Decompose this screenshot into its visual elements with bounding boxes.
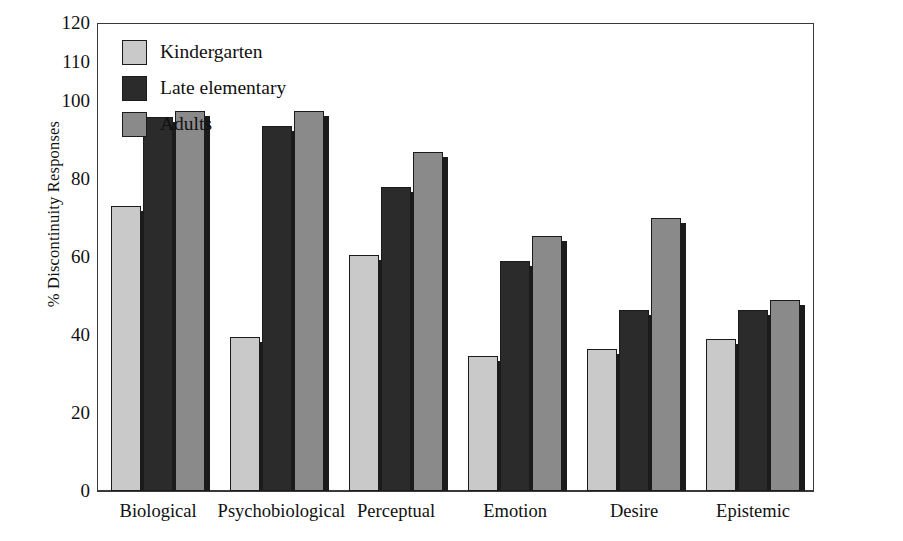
y-axis-tick-label: 40 — [28, 325, 90, 344]
bar-late-elementary[interactable] — [619, 310, 649, 491]
bar-group — [694, 23, 813, 491]
x-axis-category-label: Desire — [575, 500, 694, 522]
bar-late-elementary[interactable] — [381, 187, 411, 491]
legend-item-label: Adults — [160, 113, 212, 135]
y-axis-tick-label-wrap: 100 — [0, 91, 90, 110]
y-axis-tick-label-wrap: 20 — [0, 403, 90, 422]
y-axis-tick-label-wrap: 110 — [0, 52, 90, 71]
bar-adults[interactable] — [651, 218, 681, 491]
legend-swatch-icon — [122, 76, 147, 101]
y-axis-tick-label: 100 — [28, 91, 90, 110]
x-axis-category-label: Psychobiological — [218, 500, 337, 522]
bar-kindergarten[interactable] — [349, 255, 379, 491]
y-axis-tick-label: 0 — [28, 481, 90, 500]
bar-late-elementary[interactable] — [262, 126, 292, 491]
legend-item[interactable]: Late elementary — [122, 70, 286, 106]
bar-kindergarten[interactable] — [111, 206, 141, 491]
bar-kindergarten[interactable] — [230, 337, 260, 491]
bar-adults[interactable] — [175, 111, 205, 491]
bar-adults[interactable] — [770, 300, 800, 491]
bar-group — [575, 23, 694, 491]
y-axis-tick-label: 120 — [28, 13, 90, 32]
bar-late-elementary[interactable] — [738, 310, 768, 491]
legend-swatch-icon — [122, 112, 147, 137]
legend-item[interactable]: Kindergarten — [122, 34, 286, 70]
legend-item-label: Late elementary — [160, 77, 286, 99]
bar-late-elementary[interactable] — [500, 261, 530, 491]
y-axis-tick-label: 110 — [28, 52, 90, 71]
bar-adults[interactable] — [294, 111, 324, 491]
bar-kindergarten[interactable] — [706, 339, 736, 491]
legend-swatch-icon — [122, 40, 147, 65]
y-axis-tick-label-wrap: 80 — [0, 169, 90, 188]
bar-group — [337, 23, 456, 491]
bar-chart-figure: % Discontinuity Responses 02040608010011… — [0, 0, 903, 541]
y-axis-tick-label-wrap: 60 — [0, 247, 90, 266]
bar-late-elementary[interactable] — [143, 117, 173, 491]
y-axis-tick-label: 60 — [28, 247, 90, 266]
legend-item-label: Kindergarten — [160, 41, 263, 63]
bar-kindergarten[interactable] — [587, 349, 617, 491]
y-axis-tick-label-wrap: 0 — [0, 481, 90, 500]
x-axis-category-label: Epistemic — [694, 500, 813, 522]
x-axis-category-label: Perceptual — [337, 500, 456, 522]
y-axis-tick-label-wrap: 40 — [0, 325, 90, 344]
bar-adults[interactable] — [413, 152, 443, 491]
legend-item[interactable]: Adults — [122, 106, 286, 142]
bar-kindergarten[interactable] — [468, 356, 498, 491]
y-axis-tick-label-wrap: 120 — [0, 13, 90, 32]
x-axis-category-label: Biological — [99, 500, 218, 522]
x-axis-category-label: Emotion — [456, 500, 575, 522]
bar-adults[interactable] — [532, 236, 562, 491]
y-axis-tick-label: 20 — [28, 403, 90, 422]
chart-legend: KindergartenLate elementaryAdults — [122, 34, 286, 142]
y-axis-tick-label: 80 — [28, 169, 90, 188]
bar-group — [456, 23, 575, 491]
